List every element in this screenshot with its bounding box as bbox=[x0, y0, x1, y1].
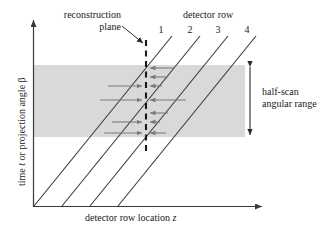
y-axis-label: time t or projection angle β bbox=[16, 77, 27, 186]
x-axis-label-part1: detector row location bbox=[85, 212, 172, 223]
detector-row-number-1: 1 bbox=[155, 24, 167, 35]
x-axis-label: detector row location z bbox=[85, 212, 176, 223]
detector-row-title: detector row bbox=[183, 9, 233, 20]
detector-row-number-4: 4 bbox=[241, 24, 253, 35]
half-scan-range-label-line1: half-scan bbox=[262, 86, 299, 97]
half-scan-range-label-line2: angular range bbox=[262, 98, 317, 109]
x-axis-label-italic: z bbox=[172, 212, 176, 223]
y-axis-label-part2: or projection angle β bbox=[16, 77, 27, 163]
detector-row-number-2: 2 bbox=[184, 24, 196, 35]
detector-row-number-3: 3 bbox=[212, 24, 224, 35]
reconstruction-plane-label-line2: plane bbox=[41, 21, 121, 32]
reconstruction-plane-pointer bbox=[122, 26, 143, 43]
y-axis-label-part1: time bbox=[16, 166, 27, 186]
y-axis-label-italic: t bbox=[16, 163, 27, 166]
ct-half-scan-diagram: time t or projection angle β detector ro… bbox=[0, 0, 330, 233]
reconstruction-plane-label-line1: reconstruction bbox=[41, 9, 121, 20]
